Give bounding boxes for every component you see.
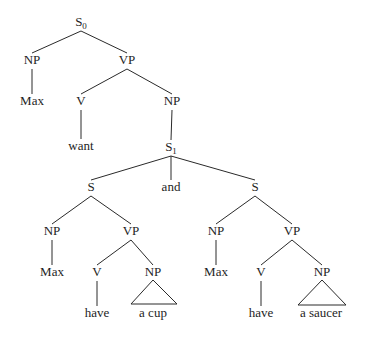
node-s-right: S (251, 179, 258, 194)
leaf-have-left: have (85, 305, 110, 320)
triangle-abbreviation (131, 280, 177, 304)
node-s0: S0 (75, 14, 87, 31)
syntax-tree: S0 NP VP Max V NP want S1 S and S NP VP … (0, 0, 365, 337)
leaf-a-cup: a cup (139, 305, 167, 320)
node-np-right: NP (208, 223, 225, 238)
tree-triangles (131, 280, 346, 305)
tree-edge (52, 196, 91, 224)
node-np-subject: NP (24, 52, 41, 67)
tree-edge (97, 240, 131, 265)
node-v-right: V (256, 264, 266, 279)
leaf-max-left: Max (40, 264, 64, 279)
node-s1: S1 (165, 139, 177, 156)
tree-edge (292, 240, 322, 265)
tree-edges (32, 31, 322, 306)
tree-edge (171, 110, 172, 140)
tree-edge (216, 196, 255, 224)
leaf-max-top: Max (20, 93, 44, 108)
node-v-want: V (76, 93, 86, 108)
node-np-cup: NP (145, 264, 162, 279)
leaf-want: want (68, 138, 94, 153)
node-s-left: S (87, 179, 94, 194)
tree-edge (91, 156, 171, 180)
tree-edge (91, 196, 131, 224)
node-v-left: V (92, 264, 102, 279)
tree-edge (171, 156, 255, 180)
tree-edge (81, 31, 127, 53)
node-vp-right: VP (284, 223, 301, 238)
tree-edge (127, 69, 172, 94)
tree-edge (255, 196, 292, 224)
tree-edge (131, 240, 153, 265)
tree-labels: S0 NP VP Max V NP want S1 S and S NP VP … (20, 14, 343, 320)
leaf-and: and (162, 179, 181, 194)
triangle-abbreviation (298, 280, 346, 305)
tree-edge (261, 240, 292, 265)
node-np-left: NP (44, 223, 61, 238)
tree-edge (32, 31, 81, 53)
node-vp-left: VP (123, 223, 140, 238)
leaf-have-right: have (249, 305, 274, 320)
node-np-saucer: NP (314, 264, 331, 279)
leaf-a-saucer: a saucer (300, 305, 343, 320)
leaf-max-right: Max (204, 264, 228, 279)
node-vp-main: VP (119, 52, 136, 67)
node-np-object: NP (164, 93, 181, 108)
tree-edge (81, 69, 127, 94)
